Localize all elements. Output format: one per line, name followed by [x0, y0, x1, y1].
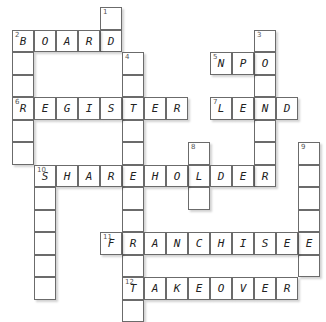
grid-cell[interactable]: O	[254, 52, 276, 75]
grid-cell[interactable]	[122, 255, 144, 278]
grid-cell[interactable]	[298, 165, 320, 188]
grid-cell[interactable]: 1	[100, 7, 122, 30]
grid-cell[interactable]: O	[34, 30, 56, 53]
grid-cell[interactable]: O	[166, 165, 188, 188]
grid-cell[interactable]: D	[210, 165, 232, 188]
grid-cell[interactable]: R	[122, 232, 144, 255]
cell-letter: K	[167, 282, 187, 296]
cell-letter: R	[123, 237, 143, 251]
grid-cell[interactable]: R	[166, 97, 188, 120]
cell-letter: C	[189, 237, 209, 251]
grid-cell[interactable]: 3	[254, 30, 276, 53]
grid-cell[interactable]: R	[100, 165, 122, 188]
grid-cell[interactable]: E	[254, 277, 276, 300]
grid-cell[interactable]	[254, 142, 276, 165]
grid-cell[interactable]	[122, 300, 144, 322]
grid-cell[interactable]: S	[254, 232, 276, 255]
grid-cell[interactable]	[122, 210, 144, 233]
grid-cell[interactable]: P	[232, 52, 254, 75]
grid-cell[interactable]	[34, 187, 56, 210]
cell-letter: H	[211, 237, 231, 251]
grid-cell[interactable]: I	[232, 232, 254, 255]
grid-cell[interactable]: E	[34, 97, 56, 120]
grid-cell[interactable]	[34, 277, 56, 300]
grid-cell[interactable]	[298, 210, 320, 233]
grid-cell[interactable]: 11F	[100, 232, 122, 255]
grid-cell[interactable]: R	[276, 277, 298, 300]
grid-cell[interactable]: D	[100, 30, 122, 53]
grid-cell[interactable]	[254, 75, 276, 98]
cell-letter: E	[145, 102, 165, 116]
grid-cell[interactable]: 5N	[210, 52, 232, 75]
cell-letter: P	[233, 57, 253, 71]
clue-number: 1	[103, 8, 107, 16]
grid-cell[interactable]	[188, 187, 210, 210]
cell-letter: R	[101, 170, 121, 184]
cell-letter: A	[145, 237, 165, 251]
grid-cell[interactable]	[34, 232, 56, 255]
grid-cell[interactable]: 7L	[210, 97, 232, 120]
clue-number: 3	[257, 31, 261, 39]
grid-cell[interactable]: E	[232, 165, 254, 188]
grid-cell[interactable]: G	[56, 97, 78, 120]
grid-cell[interactable]: K	[166, 277, 188, 300]
grid-cell[interactable]: 8	[188, 142, 210, 165]
grid-cell[interactable]: 6R	[12, 97, 34, 120]
cell-letter: R	[277, 282, 297, 296]
grid-cell[interactable]: T	[122, 97, 144, 120]
cell-letter: F	[101, 237, 121, 251]
grid-cell[interactable]	[34, 210, 56, 233]
grid-cell[interactable]	[298, 255, 320, 278]
grid-cell[interactable]: 12T	[122, 277, 144, 300]
grid-cell[interactable]: E	[232, 97, 254, 120]
grid-cell[interactable]	[34, 255, 56, 278]
grid-cell[interactable]	[298, 187, 320, 210]
grid-cell[interactable]	[254, 120, 276, 143]
grid-cell[interactable]: A	[144, 277, 166, 300]
grid-cell[interactable]: A	[78, 165, 100, 188]
grid-cell[interactable]	[122, 75, 144, 98]
cell-letter: S	[101, 102, 121, 116]
grid-cell[interactable]	[122, 120, 144, 143]
grid-cell[interactable]	[12, 75, 34, 98]
cell-letter: T	[123, 282, 143, 296]
grid-cell[interactable]: H	[56, 165, 78, 188]
cell-letter: R	[255, 170, 275, 184]
clue-number: 4	[125, 53, 129, 61]
grid-cell[interactable]: 4	[122, 52, 144, 75]
grid-cell[interactable]: L	[188, 165, 210, 188]
grid-cell[interactable]	[122, 142, 144, 165]
grid-cell[interactable]: 9	[298, 142, 320, 165]
grid-cell[interactable]: I	[78, 97, 100, 120]
grid-cell[interactable]: S	[100, 97, 122, 120]
grid-cell[interactable]: E	[298, 232, 320, 255]
grid-cell[interactable]: R	[78, 30, 100, 53]
grid-cell[interactable]	[12, 120, 34, 143]
cell-letter: E	[233, 170, 253, 184]
grid-cell[interactable]: N	[166, 232, 188, 255]
grid-cell[interactable]: E	[276, 232, 298, 255]
cell-letter: S	[255, 237, 275, 251]
grid-cell[interactable]: E	[144, 97, 166, 120]
grid-cell[interactable]: A	[56, 30, 78, 53]
grid-cell[interactable]: C	[188, 232, 210, 255]
grid-cell[interactable]: N	[254, 97, 276, 120]
grid-cell[interactable]: H	[144, 165, 166, 188]
grid-cell[interactable]	[12, 142, 34, 165]
grid-cell[interactable]: O	[210, 277, 232, 300]
grid-cell[interactable]: 10S	[34, 165, 56, 188]
grid-cell[interactable]: D	[276, 97, 298, 120]
grid-cell[interactable]: V	[232, 277, 254, 300]
grid-cell[interactable]	[12, 52, 34, 75]
grid-cell[interactable]: E	[122, 165, 144, 188]
grid-cell[interactable]: E	[188, 277, 210, 300]
grid-cell[interactable]: R	[254, 165, 276, 188]
clue-number: 9	[301, 143, 305, 151]
grid-cell[interactable]: A	[144, 232, 166, 255]
cell-letter: O	[167, 170, 187, 184]
cell-letter: E	[299, 237, 319, 251]
grid-cell[interactable]: 2B	[12, 30, 34, 53]
grid-cell[interactable]: H	[210, 232, 232, 255]
grid-cell[interactable]	[122, 187, 144, 210]
